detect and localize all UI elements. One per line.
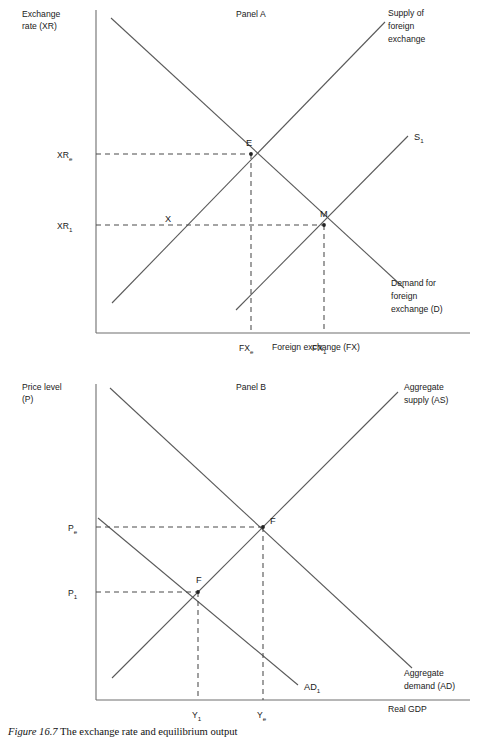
panel-b-ad-curve bbox=[110, 388, 412, 668]
panel-a-demand-label-line3: exchange (D) bbox=[391, 304, 443, 314]
panel-a-supply-shift-label: S1 bbox=[414, 132, 424, 144]
panel-b-x-axis-label: Real GDP bbox=[388, 704, 427, 714]
panel-b-title: Panel B bbox=[236, 382, 266, 392]
panel-b-ytick-pe: Pe bbox=[68, 523, 78, 535]
panel-b-y-axis-label-line1: Price level bbox=[22, 382, 62, 392]
panel-b-point-f-low-dot bbox=[196, 590, 200, 594]
panel-b-as-label-line1: Aggregate bbox=[404, 382, 444, 392]
panel-a-xtick-fxe: FXe bbox=[239, 343, 254, 355]
panel-a-supply-label-line3: exchange bbox=[388, 34, 425, 44]
panel-a-point-e-label: E bbox=[246, 138, 252, 148]
panel-a-supply-label-line2: foreign bbox=[388, 21, 414, 31]
panel-a-demand-label-line2: foreign bbox=[391, 291, 417, 301]
panel-a-point-x-label: X bbox=[165, 214, 171, 224]
panel-a-group: Exchange rate (XR) Foreign exchange (FX)… bbox=[22, 8, 470, 355]
panel-b-point-f-high-label: F bbox=[270, 516, 276, 526]
panel-a-point-m-dot bbox=[322, 223, 326, 227]
figure-container: Exchange rate (XR) Foreign exchange (FX)… bbox=[0, 0, 486, 749]
panel-a-y-axis-label-line1: Exchange bbox=[22, 9, 60, 19]
panel-b-ad-shift-label: AD1 bbox=[304, 682, 321, 694]
panel-a-supply-curve bbox=[112, 22, 385, 303]
panel-b-as-curve bbox=[112, 392, 398, 678]
figure-caption-label: Figure 16.7 bbox=[8, 726, 58, 737]
panel-b-as-label-line2: supply (AS) bbox=[404, 395, 449, 405]
panel-b-point-f-high-dot bbox=[261, 525, 265, 529]
panel-b-ad-label-line2: demand (AD) bbox=[404, 681, 455, 691]
panel-b-group: Price level (P) Real GDP Panel B Aggrega… bbox=[22, 382, 470, 722]
panel-a-title: Panel A bbox=[236, 9, 266, 19]
panel-a-ytick-xre: XRe bbox=[57, 150, 73, 162]
figure-caption-text: The exchange rate and equilibrium output bbox=[60, 726, 237, 737]
panel-b-ad-label-line1: Aggregate bbox=[404, 668, 444, 678]
panel-a-demand-label-line1: Demand for bbox=[391, 278, 436, 288]
panel-b-xtick-y1: Y1 bbox=[192, 710, 202, 722]
panel-a-supply-label-line1: Supply of bbox=[388, 8, 424, 18]
figure-svg: Exchange rate (XR) Foreign exchange (FX)… bbox=[0, 0, 486, 749]
panel-a-point-m-label: M bbox=[320, 209, 328, 219]
panel-b-point-f-low-label: F bbox=[196, 575, 202, 585]
panel-b-xtick-ye: Ye bbox=[257, 710, 267, 722]
panel-a-ytick-xr1: XR1 bbox=[57, 221, 73, 233]
panel-a-point-e-dot bbox=[249, 152, 253, 156]
panel-b-ytick-p1: P1 bbox=[68, 588, 78, 600]
panel-a-supply-shift-curve bbox=[236, 136, 408, 310]
panel-b-y-axis-label-line2: (P) bbox=[22, 394, 34, 404]
figure-caption: Figure 16.7 The exchange rate and equili… bbox=[8, 726, 238, 737]
panel-a-y-axis-label-line2: rate (XR) bbox=[22, 21, 57, 31]
